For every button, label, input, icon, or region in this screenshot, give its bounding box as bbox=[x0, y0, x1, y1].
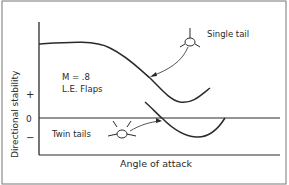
diagram-figure: Directional stability + 0 − Angle of att… bbox=[0, 0, 289, 185]
x-axis-label: Angle of attack bbox=[120, 158, 193, 169]
mach-label: M = .8 bbox=[62, 72, 90, 82]
single-tail-arrow bbox=[152, 47, 188, 76]
y-axis-label: Directional stability bbox=[10, 70, 20, 158]
single-tail-label: Single tail bbox=[207, 29, 249, 39]
arrowhead-icon bbox=[150, 72, 157, 77]
twin-tails-arrow bbox=[130, 121, 160, 131]
tick-minus: − bbox=[26, 132, 34, 143]
single-tail-aircraft-icon bbox=[180, 28, 200, 47]
tick-zero: 0 bbox=[26, 114, 32, 124]
twin-tails-label: Twin tails bbox=[51, 129, 91, 139]
flaps-label: L.E. Flaps bbox=[62, 84, 103, 94]
diagram-canvas: Directional stability + 0 − Angle of att… bbox=[0, 0, 289, 185]
arrowhead-icon bbox=[156, 118, 162, 123]
tick-plus: + bbox=[26, 89, 34, 100]
